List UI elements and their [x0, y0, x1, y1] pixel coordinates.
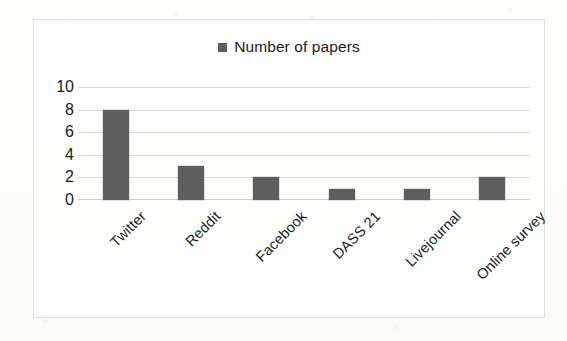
- plot-area: [78, 87, 530, 200]
- bar-livejournal[interactable]: [404, 189, 430, 200]
- bar-slot-livejournal: [379, 87, 454, 200]
- x-axis-labels: Twitter Reddit Facebook DASS 21 Livejour…: [78, 200, 530, 310]
- x-slot-livejournal: Livejournal: [379, 200, 454, 310]
- bar-slot-facebook: [229, 87, 304, 200]
- bar-facebook[interactable]: [253, 177, 279, 200]
- y-tick-0: 0: [65, 192, 74, 208]
- x-slot-twitter: Twitter: [78, 200, 153, 310]
- x-slot-facebook: Facebook: [229, 200, 304, 310]
- x-slot-dass-21: DASS 21: [304, 200, 379, 310]
- bar-slot-twitter: [78, 87, 153, 200]
- y-tick-4: 4: [65, 147, 74, 163]
- y-tick-10: 10: [56, 79, 74, 95]
- x-tick-twitter: Twitter: [107, 208, 149, 250]
- x-tick-facebook: Facebook: [253, 208, 310, 265]
- bar-slot-reddit: [153, 87, 228, 200]
- x-slot-reddit: Reddit: [153, 200, 228, 310]
- bar-twitter[interactable]: [103, 110, 129, 200]
- bar-reddit[interactable]: [178, 166, 204, 200]
- legend-label: Number of papers: [234, 38, 360, 56]
- y-axis-labels: 10 8 6 4 2 0: [38, 78, 74, 209]
- x-tick-reddit: Reddit: [182, 208, 223, 249]
- bar-online-survey[interactable]: [479, 177, 505, 200]
- bar-dass-21[interactable]: [329, 189, 355, 200]
- legend-swatch-icon: [218, 43, 227, 52]
- x-tick-dass-21: DASS 21: [329, 208, 383, 262]
- y-tick-6: 6: [65, 124, 74, 140]
- chart-legend: Number of papers: [33, 38, 545, 56]
- y-tick-8: 8: [65, 102, 74, 118]
- bar-slot-online-survey: [455, 87, 530, 200]
- bar-group: [78, 87, 530, 200]
- x-slot-online-survey: Online survey: [455, 200, 530, 310]
- bar-slot-dass-21: [304, 87, 379, 200]
- y-tick-2: 2: [65, 169, 74, 185]
